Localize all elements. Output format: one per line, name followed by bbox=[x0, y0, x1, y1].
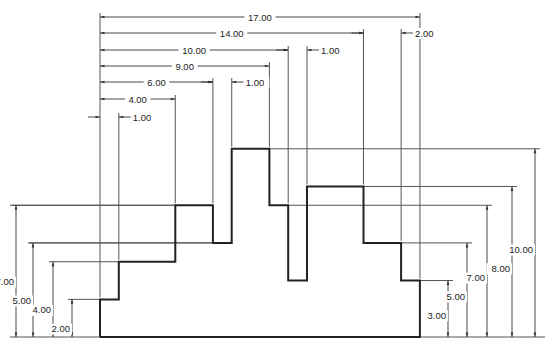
dimension-label: 6.00 bbox=[147, 77, 166, 88]
dimension-label: 7.00 bbox=[0, 276, 14, 287]
dimension-label: 5.00 bbox=[447, 291, 466, 302]
dimension-label: 1.00 bbox=[133, 112, 152, 123]
dimension-label: 4.00 bbox=[128, 94, 147, 105]
dimension-label: 10.00 bbox=[509, 244, 533, 255]
dimension-label: 3.00 bbox=[428, 310, 447, 321]
dimension-label: 1.00 bbox=[246, 77, 264, 88]
dimension-label: 5.00 bbox=[13, 295, 32, 306]
dimension-label: 2.00 bbox=[52, 323, 71, 334]
dimension-label: 17.00 bbox=[248, 12, 272, 23]
extension-lines bbox=[10, 13, 545, 337]
dimension-label: 14.00 bbox=[220, 28, 244, 39]
dimension-labels: 17.0014.002.0010.001.009.006.001.004.001… bbox=[0, 12, 535, 335]
dimension-label: 10.00 bbox=[182, 45, 206, 56]
technical-drawing: 17.0014.002.0010.001.009.006.001.004.001… bbox=[0, 0, 557, 345]
dimension-label: 2.00 bbox=[415, 28, 434, 39]
dimension-label: 8.00 bbox=[492, 263, 511, 274]
dimension-label: 1.00 bbox=[321, 45, 340, 56]
dimension-label: 7.00 bbox=[467, 272, 486, 283]
dimension-lines bbox=[16, 17, 535, 337]
dimension-label: 4.00 bbox=[33, 304, 52, 315]
dimension-label: 9.00 bbox=[175, 61, 194, 72]
